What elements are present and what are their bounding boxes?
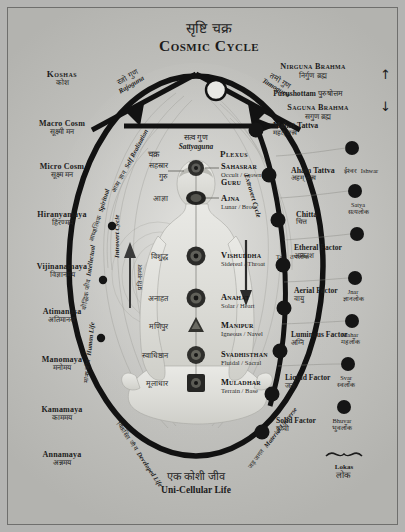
loka-ishwar-en: Ishwar [361,167,378,174]
bottom-caption-en: Uni-Cellular Life [161,486,231,496]
chakra-label-hi-anahat: अनाहत [148,293,168,303]
chakra-name-anahat: Anahat [221,293,249,302]
loka-satya-hi: सत्यलोक [348,209,369,216]
sattyaguna-hi: सत्व गुण [179,131,214,142]
diagram-frame: सृष्टि चक्र Cosmic Cycle Nirguna Brahma … [7,7,398,525]
kosha-label-hi: सूक्ष्मी मन [39,128,85,136]
purushottam-hi: पुरुषोत्तम [318,89,343,98]
loka-ishwar: ईश्वर Ishwar [344,160,378,177]
kosha-label-hi: अतिमानस [43,316,82,324]
loka-bhuvar: Bhuvar भुवर्लोक [332,418,352,432]
factor-luminous: Luminous Factor अग्नि [291,331,347,347]
tattva-aham: Aham Tattva अहम् तत्त्व [291,167,335,183]
chakra-guru-label: Guru [221,178,241,187]
cosmic-cycle-diagram: सृष्टि चक्र Cosmic Cycle Nirguna Brahma … [0,0,405,532]
loka-jnar-hi: ज्ञानलोक [343,296,364,303]
intellectual-en: Intellectual [85,245,96,277]
chakra-header-en: Plexus [220,150,248,159]
guna-sattyaguna: सत्व गुण Sattyaguna [179,131,214,151]
kosha-item: Hiranyamaya हिरण्मय [37,211,86,227]
chakra-name-vishuddha: Vishuddha [221,251,261,260]
chakra-label-hi-sahasrar: सहस्रार [149,160,168,170]
loka-mahar: Mahar महर्लोक [341,332,360,346]
chakra-name-sahasrar: Sahasrar [221,162,257,171]
pratisancara-label: प्रति-सञ्चर [128,264,146,290]
chakra-name-muladhar: Muladhar [221,378,261,387]
pratisancara-hi: प्रति-सञ्चर [136,264,143,290]
lokas-group-label: Lokas लोक [335,464,353,480]
factor-liquid: Liquid Factor जल [285,374,330,390]
tattva-aham-hi: अहम् तत्त्व [291,175,335,182]
lokas-label-hi: लोक [335,471,353,480]
introvert-cycle-text: Introvert Cycle [113,215,121,258]
kosha-item: Kamamaya काममय [41,406,82,422]
koshas-heading-hi: कोश [47,79,77,87]
loka-tap-en: Tap [276,253,286,260]
kosha-label-hi: अन्नमय [43,459,82,467]
kosha-item: Atimanasa अतिमानस [43,308,82,324]
chakra-label-hi-vishuddha: विशुद्ध [151,251,168,261]
loka-tap: Tap तपलोक [276,246,309,263]
bottom-caption-hi: एक कोशी जीव [167,471,226,483]
chakra-label-hi-guru: गुरु [159,171,168,181]
loka-satya: Satya सत्यलोक [348,202,369,216]
chakra-sub-muladhar: Terrain / Base [221,387,258,394]
saguna-brahma-label-hindi: सगुण ब्रह्म [305,113,331,121]
loka-svar-hi: स्वर्लोक [337,382,355,389]
arrow-down-icon: ↓ [380,100,391,113]
chakra-label-hi-svadhisthan: स्वाधिष्ठान [142,350,168,360]
sattyaguna-en: Sattyaguna [179,142,214,151]
chakra-name-ajna: Ajna [221,194,240,203]
page-title-hindi: सृष्टि चक्र [186,21,231,36]
tattva-mahat-hi: महत् तत्त्व [273,130,318,137]
kosha-label-hi: काममय [41,414,82,422]
loka-ishwar-hi: ईश्वर [344,167,357,175]
kosha-item: Macro Cosm सूक्ष्मी मन [39,120,85,136]
human-life-hi: मानव जीव [82,359,91,384]
loka-bhuvar-hi: भुवर्लोक [332,425,352,432]
kosha-label-hi: सूक्ष्म मन [40,171,84,179]
factor-aerial-hi: वायु [294,295,338,303]
loka-svar: Svar स्वर्लोक [337,375,355,389]
chakra-header-hi: चक्र [148,150,159,159]
tattva-mahat: Mahat Tattva महत् तत्त्व [273,122,318,138]
chakra-label-hi-manipur: मणिपुर [149,321,168,331]
chakra-name-svadhisthan: Svadhisthan [221,350,268,359]
chakra-sub-anahat: Solar / Heart [221,302,255,309]
koshas-heading: Koshas कोश [47,70,77,87]
kosha-label-hi: हिरण्मय [37,219,86,227]
tattva-chitta-hi: चित्त [296,219,317,226]
chakra-label-hi-muladhar: मूलाधार [146,378,168,388]
page-title: Cosmic Cycle [159,38,259,54]
arrow-up-icon: ↑ [380,68,391,81]
factor-liquid-hi: जल [285,382,330,390]
tattva-chitta: Chitta चित्त [296,211,317,227]
loka-mahar-hi: महर्लोक [341,339,360,346]
chakra-label-hi-ajna: आज्ञा [153,193,168,203]
intellectual-hi: बौद्धिक जीव [80,279,91,310]
loka-tap-hi: तपलोक [290,253,309,261]
loka-jnar: Jnar ज्ञानलोक [343,289,364,303]
chakra-sub-svadhisthan: Fluidal / Sacral [221,359,261,366]
chakra-sub-manipur: Igneous / Navel [221,330,263,337]
kosha-item: Annamaya अन्नमय [43,451,82,467]
factor-aerial: Aerial Factor वायु [294,287,338,303]
chakra-sub-vishuddha: Sidereal / Throat [221,260,265,267]
kosha-item: Micro Cosm सूक्ष्म मन [40,163,84,179]
factor-luminous-hi: अग्नि [291,339,347,347]
nirguna-brahma-label-hindi: निर्गुण ब्रह्म [299,72,326,80]
introvert-cycle-label: Introvert Cycle [105,215,123,258]
human-life-en: Human Life [85,322,95,356]
chakra-name-manipur: Manipur [221,321,254,330]
